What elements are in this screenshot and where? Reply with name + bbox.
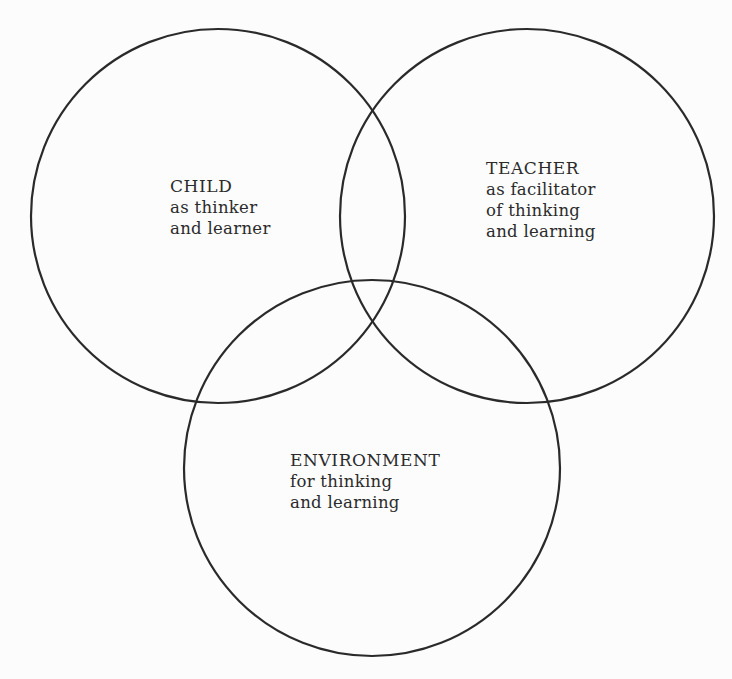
teacher-line-1: as facilitator <box>486 179 596 200</box>
label-environment: ENVIRONMENT for thinking and learning <box>290 450 441 513</box>
child-title: CHILD <box>170 176 271 197</box>
child-line-2: and learner <box>170 218 271 239</box>
venn-diagram <box>0 0 732 679</box>
venn-diagram-canvas: CHILD as thinker and learner TEACHER as … <box>0 0 732 679</box>
teacher-title: TEACHER <box>486 158 596 179</box>
environment-title: ENVIRONMENT <box>290 450 441 471</box>
environment-line-2: and learning <box>290 492 441 513</box>
teacher-line-3: and learning <box>486 221 596 242</box>
environment-line-1: for thinking <box>290 471 441 492</box>
label-teacher: TEACHER as facilitator of thinking and l… <box>486 158 596 242</box>
teacher-line-2: of thinking <box>486 200 596 221</box>
child-line-1: as thinker <box>170 197 271 218</box>
label-child: CHILD as thinker and learner <box>170 176 271 239</box>
